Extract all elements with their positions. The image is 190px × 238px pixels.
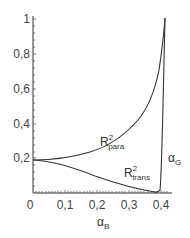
annotation-r2-trans: R2trans <box>124 164 150 182</box>
y-tick-label: 0,2 <box>13 151 30 165</box>
y-tick-label: 0,4 <box>13 117 30 131</box>
x-tick-label: 0,2 <box>89 198 106 212</box>
series-r2-para <box>33 18 165 160</box>
y-tick-label: 0,6 <box>13 82 30 96</box>
series-r2-trans <box>33 18 165 192</box>
x-tick-label: 0,3 <box>121 198 138 212</box>
x-tick-label: 0,1 <box>57 198 74 212</box>
x-axis-label: αB <box>97 215 109 231</box>
x-tick-label: 0,4 <box>153 198 170 212</box>
reflectance-chart: 1 0,8 0,6 0,4 0,2 0 0,1 0,2 0,3 0,4 αB R… <box>0 0 190 238</box>
x-tick-label: 0 <box>27 198 34 212</box>
annotation-alpha-g: αG <box>168 151 181 167</box>
y-tick-label: 1 <box>23 12 30 26</box>
y-tick-label: 0,8 <box>13 47 30 61</box>
